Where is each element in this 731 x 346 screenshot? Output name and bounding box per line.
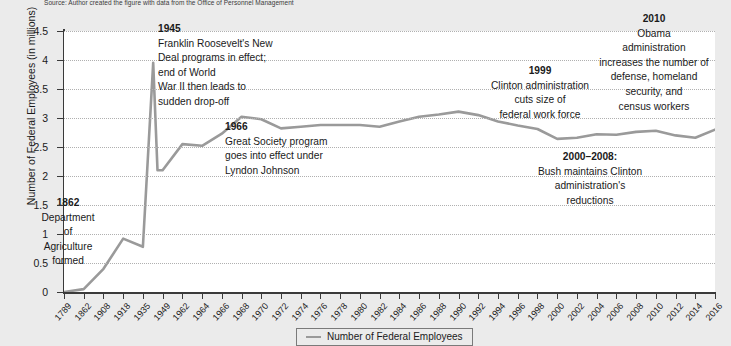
y-tick-label: 4.5: [8, 25, 48, 37]
y-tick-label: 3: [8, 112, 48, 124]
annotation-1862-line-2: Agriculture: [44, 241, 93, 252]
x-tick-mark: [380, 292, 381, 299]
x-tick-mark: [676, 292, 677, 299]
y-tick-mark: [57, 89, 64, 90]
x-tick-mark: [636, 292, 637, 299]
y-tick-mark: [57, 60, 64, 61]
x-tick-mark: [478, 292, 479, 299]
legend-label: Number of Federal Employees: [327, 331, 463, 342]
x-tick-mark: [64, 292, 65, 299]
y-tick-label: 4: [8, 54, 48, 66]
annotation-2000-2008-line-0: Bush maintains Clinton: [538, 166, 642, 177]
annotation-1999-line-1: cuts size of: [515, 94, 566, 105]
x-tick-mark: [399, 292, 400, 299]
annotation-1945-year: 1945: [158, 22, 308, 37]
gridline: [64, 147, 715, 149]
annotation-1999-line-0: Clinton administration: [491, 80, 589, 91]
annotation-2010: 2010 Obama administration increases the …: [580, 12, 728, 114]
x-tick-mark: [360, 292, 361, 299]
annotation-2000-2008-line-1: administration's: [555, 180, 625, 191]
y-tick-mark: [57, 234, 64, 235]
annotation-1862-line-3: formed: [52, 255, 84, 266]
x-tick-mark: [459, 292, 460, 299]
annotation-1945-line-2: end of World: [158, 67, 216, 78]
y-tick-label: 1: [8, 228, 48, 240]
annotation-2010-line-3: defense, homeland: [611, 71, 698, 82]
x-tick-mark: [715, 292, 716, 299]
y-tick-mark: [57, 31, 64, 32]
y-tick-mark: [57, 292, 64, 293]
x-tick-mark: [498, 292, 499, 299]
x-tick-mark: [163, 292, 164, 299]
x-tick-mark: [320, 292, 321, 299]
annotation-2010-line-2: increases the number of: [599, 57, 708, 68]
annotation-1966-line-1: goes into effect under: [225, 150, 323, 161]
annotation-2010-line-5: census workers: [619, 101, 690, 112]
x-tick-mark: [281, 292, 282, 299]
y-tick-mark: [57, 118, 64, 119]
x-tick-mark: [557, 292, 558, 299]
x-tick-mark: [222, 292, 223, 299]
annotation-2010-year: 2010: [580, 12, 728, 27]
annotation-2000-2008-line-2: reductions: [566, 195, 613, 206]
x-tick-mark: [103, 292, 104, 299]
x-tick-mark: [577, 292, 578, 299]
y-tick-mark: [57, 147, 64, 148]
annotation-2000-2008-year: 2000–2008:: [523, 150, 657, 165]
annotation-1945: 1945 Franklin Roosevelt's New Deal progr…: [158, 22, 308, 110]
annotation-1966-year: 1966: [225, 120, 357, 135]
annotation-1945-line-4: sudden drop-off: [158, 96, 229, 107]
gridline: [64, 118, 715, 120]
x-tick-mark: [695, 292, 696, 299]
x-tick-mark: [340, 292, 341, 299]
annotation-1945-line-3: War II then leads to: [158, 81, 246, 92]
y-tick-label: 1.5: [8, 199, 48, 211]
x-axis-line: [63, 292, 716, 294]
y-tick-label: 0.5: [8, 257, 48, 269]
x-tick-mark: [518, 292, 519, 299]
annotation-1862-line-1: of: [64, 226, 73, 237]
x-tick-mark: [616, 292, 617, 299]
y-tick-label: 3.5: [8, 83, 48, 95]
annotation-1945-line-0: Franklin Roosevelt's New: [158, 38, 273, 49]
x-tick-mark: [202, 292, 203, 299]
x-tick-mark: [84, 292, 85, 299]
gridline: [64, 263, 715, 265]
x-tick-mark: [123, 292, 124, 299]
x-tick-mark: [656, 292, 657, 299]
source-note: Source: Author created the figure with d…: [44, 0, 294, 6]
x-tick-mark: [182, 292, 183, 299]
x-tick-mark: [242, 292, 243, 299]
x-tick-mark: [537, 292, 538, 299]
x-tick-mark: [419, 292, 420, 299]
y-tick-label: 2.5: [8, 141, 48, 153]
gridline: [64, 234, 715, 236]
annotation-1999-line-2: federal work force: [500, 109, 581, 120]
annotation-2010-line-0: Obama: [637, 28, 670, 39]
y-tick-mark: [57, 263, 64, 264]
y-tick-mark: [57, 176, 64, 177]
annotation-1862-line-0: Department: [41, 212, 94, 223]
y-tick-label: 0: [8, 286, 48, 298]
annotation-1966: 1966 Great Society program goes into eff…: [225, 120, 357, 178]
line-swatch-icon: [306, 336, 321, 338]
y-tick-label: 2: [8, 170, 48, 182]
x-tick-mark: [439, 292, 440, 299]
y-tick-mark: [57, 205, 64, 206]
annotation-1966-line-0: Great Society program: [225, 136, 327, 147]
x-tick-mark: [143, 292, 144, 299]
x-tick-mark: [301, 292, 302, 299]
x-tick-mark: [261, 292, 262, 299]
annotation-2000-2008: 2000–2008: Bush maintains Clinton admini…: [523, 150, 657, 208]
annotation-1945-line-1: Deal programs in effect;: [158, 52, 266, 63]
annotation-2010-line-4: security, and: [625, 86, 682, 97]
annotation-1966-line-2: Lyndon Johnson: [225, 165, 299, 176]
annotation-2010-line-1: administration: [622, 42, 685, 53]
x-tick-mark: [597, 292, 598, 299]
